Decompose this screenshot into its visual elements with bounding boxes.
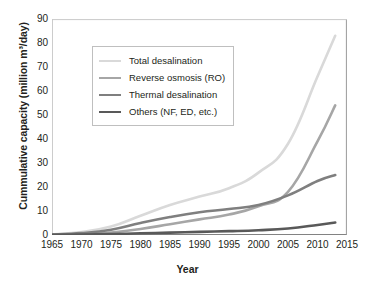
- x-axis-tick-labels: 1965197019751980198519901995200020052010…: [0, 240, 375, 256]
- legend: Total desalinationReverse osmosis (RO)Th…: [92, 46, 234, 126]
- legend-item: Thermal desalination: [99, 86, 225, 103]
- legend-label: Total desalination: [129, 56, 202, 66]
- legend-item: Total desalination: [99, 52, 225, 69]
- y-tick-label: 50: [22, 110, 48, 120]
- legend-label: Others (NF, ED, etc.): [129, 107, 217, 117]
- legend-item: Others (NF, ED, etc.): [99, 103, 225, 120]
- y-tick-label: 60: [22, 86, 48, 96]
- legend-swatch: [99, 94, 121, 96]
- legend-swatch: [99, 60, 121, 62]
- y-tick-label: 80: [22, 38, 48, 48]
- y-tick-label: 40: [22, 134, 48, 144]
- y-tick-label: 30: [22, 158, 48, 168]
- y-tick-label: 10: [22, 206, 48, 216]
- legend-swatch: [99, 77, 121, 79]
- legend-label: Thermal desalination: [129, 90, 217, 100]
- x-tick-label: 2015: [327, 240, 367, 250]
- chart-figure: Cummulative capacity (million m³/day) Ye…: [0, 0, 375, 284]
- y-tick-label: 70: [22, 62, 48, 72]
- legend-item: Reverse osmosis (RO): [99, 69, 225, 86]
- y-tick-label: 90: [22, 14, 48, 24]
- legend-swatch: [99, 111, 121, 113]
- x-axis-title: Year: [0, 263, 375, 275]
- legend-label: Reverse osmosis (RO): [129, 73, 225, 83]
- y-tick-label: 20: [22, 182, 48, 192]
